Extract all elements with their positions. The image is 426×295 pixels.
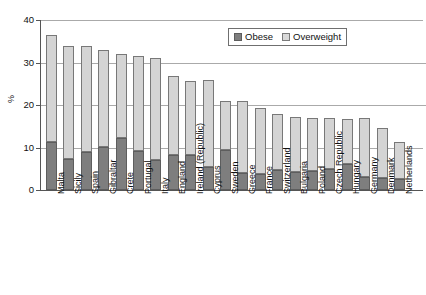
- x-label-malta: Malta: [56, 172, 67, 194]
- y-tick-label-40: 40: [12, 15, 34, 24]
- y-tick-label-20: 20: [12, 100, 34, 109]
- x-label-portugal: Portugal: [143, 160, 154, 194]
- x-label-switzerland: Switzerland: [282, 147, 293, 194]
- legend-item-obese: Obese: [234, 31, 273, 42]
- x-label-ireland-republic: Ireland (Republic): [195, 123, 206, 194]
- bar-segment-overweight: [168, 76, 179, 155]
- y-tick-label-10: 10: [12, 143, 34, 152]
- bar-segment-overweight: [133, 56, 144, 151]
- y-tick-label-30: 30: [12, 58, 34, 67]
- x-label-czech-republic: Czech Republic: [334, 131, 345, 194]
- bar-segment-overweight: [63, 46, 74, 159]
- chart-legend: Obese Overweight: [228, 28, 347, 46]
- bar-segment-overweight: [98, 50, 109, 147]
- legend-item-overweight: Overweight: [282, 31, 341, 42]
- bar-malta: [46, 35, 57, 190]
- x-label-france: France: [264, 166, 275, 194]
- x-label-sweden: Sweden: [230, 161, 241, 194]
- x-label-gibraltar: Gibraltar: [108, 159, 119, 194]
- x-label-hungary: Hungary: [351, 160, 362, 194]
- x-label-germany: Germany: [369, 157, 380, 194]
- bar-segment-overweight: [220, 101, 231, 151]
- x-label-sicily: Sicily: [73, 173, 84, 194]
- bar-segment-overweight: [46, 35, 57, 142]
- overweight-swatch-icon: [282, 33, 290, 41]
- x-label-greece: Greece: [247, 164, 258, 194]
- bar-sicily: [63, 46, 74, 191]
- legend-label-overweight: Overweight: [293, 31, 341, 42]
- obese-swatch-icon: [234, 33, 242, 41]
- bar-chart: % 403020100 MaltaSicilySpainGibraltarCre…: [0, 0, 426, 295]
- x-label-crete: Crete: [125, 172, 136, 194]
- bar-segment-overweight: [116, 54, 127, 138]
- bar-spain: [81, 46, 92, 191]
- x-label-cyprus: Cyprus: [212, 165, 223, 194]
- x-label-netherlands: Netherlands: [404, 145, 415, 194]
- x-label-italy: Italy: [160, 177, 171, 194]
- x-label-poland: Poland: [317, 166, 328, 194]
- bar-segment-overweight: [150, 58, 161, 160]
- x-label-england: England: [177, 161, 188, 194]
- legend-label-obese: Obese: [245, 31, 273, 42]
- x-label-spain: Spain: [90, 171, 101, 194]
- x-label-denmark: Denmark: [386, 157, 397, 194]
- x-label-bulgaria: Bulgaria: [299, 161, 310, 194]
- bar-segment-overweight: [81, 46, 92, 152]
- y-tick-label-0: 0: [12, 185, 34, 194]
